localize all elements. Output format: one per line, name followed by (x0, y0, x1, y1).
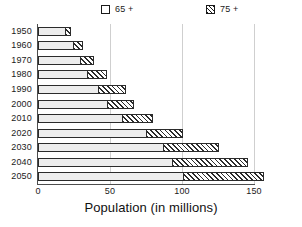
bar-segment-75-plus (172, 158, 248, 167)
y-axis-tick-label: 1990 (11, 85, 32, 94)
bar-row (38, 143, 219, 152)
bar-segment-75-plus (107, 100, 134, 109)
y-axis-tick-label: 2020 (11, 129, 32, 138)
bar-row (38, 172, 264, 181)
x-axis-tick-label: 0 (35, 186, 40, 196)
bar-segment-65-plus (38, 27, 65, 36)
x-axis-tick-label: 150 (246, 186, 262, 196)
bar-row (38, 27, 71, 36)
bar-segment-75-plus (122, 114, 154, 123)
y-axis-tick-label: 1950 (11, 27, 32, 36)
legend-label-75-plus: 75 + (220, 4, 239, 14)
bar-segment-65-plus (38, 85, 98, 94)
x-axis-tick-labels: 050100150 (0, 186, 302, 200)
bar-segment-65-plus (38, 172, 183, 181)
plot-area (38, 24, 254, 184)
y-axis-tick-label: 2030 (11, 143, 32, 152)
bar-segment-75-plus (87, 70, 107, 79)
bar-segment-75-plus (163, 143, 219, 152)
bar-segment-65-plus (38, 70, 87, 79)
bar-row (38, 129, 183, 138)
y-axis-tick-label: 2010 (11, 114, 32, 123)
bar-rows (38, 24, 254, 184)
y-axis-tick-label: 2050 (11, 172, 32, 181)
bar-segment-75-plus (183, 172, 264, 181)
bar-row (38, 85, 126, 94)
x-axis-line (37, 184, 255, 185)
legend-label-65-plus: 65 + (115, 4, 134, 14)
legend-swatch-65-plus-icon (101, 5, 110, 14)
x-axis-tick-label: 100 (174, 186, 190, 196)
legend-item-75-plus: 75 + (206, 4, 239, 14)
bar-row (38, 41, 83, 50)
bar-segment-75-plus (65, 27, 71, 36)
bar-segment-75-plus (146, 129, 183, 138)
bar-segment-65-plus (38, 129, 146, 138)
bar-segment-75-plus (80, 56, 94, 65)
bar-segment-65-plus (38, 114, 122, 123)
y-axis-tick-label: 1980 (11, 70, 32, 79)
y-axis-tick-label: 2040 (11, 158, 32, 167)
bar-row (38, 114, 153, 123)
x-axis-title: Population (in millions) (0, 200, 302, 215)
legend-item-65-plus: 65 + (101, 4, 134, 14)
bar-segment-65-plus (38, 41, 73, 50)
bar-row (38, 70, 107, 79)
y-axis-tick-label: 1970 (11, 56, 32, 65)
y-axis-tick-labels: 1950196019701980199020002010202020302040… (0, 24, 36, 184)
y-axis-tick-label: 1960 (11, 41, 32, 50)
gridline-150 (254, 24, 255, 184)
bar-row (38, 158, 248, 167)
bar-segment-75-plus (73, 41, 83, 50)
bar-segment-75-plus (98, 85, 125, 94)
bar-segment-65-plus (38, 158, 172, 167)
chart-legend: 65 + 75 + (0, 4, 302, 20)
bar-row (38, 100, 134, 109)
bar-row (38, 56, 94, 65)
x-axis-tick-label: 50 (105, 186, 115, 196)
y-axis-tick-label: 2000 (11, 100, 32, 109)
bar-segment-65-plus (38, 56, 80, 65)
legend-swatch-75-plus-icon (206, 5, 215, 14)
bar-segment-65-plus (38, 143, 163, 152)
bar-segment-65-plus (38, 100, 107, 109)
